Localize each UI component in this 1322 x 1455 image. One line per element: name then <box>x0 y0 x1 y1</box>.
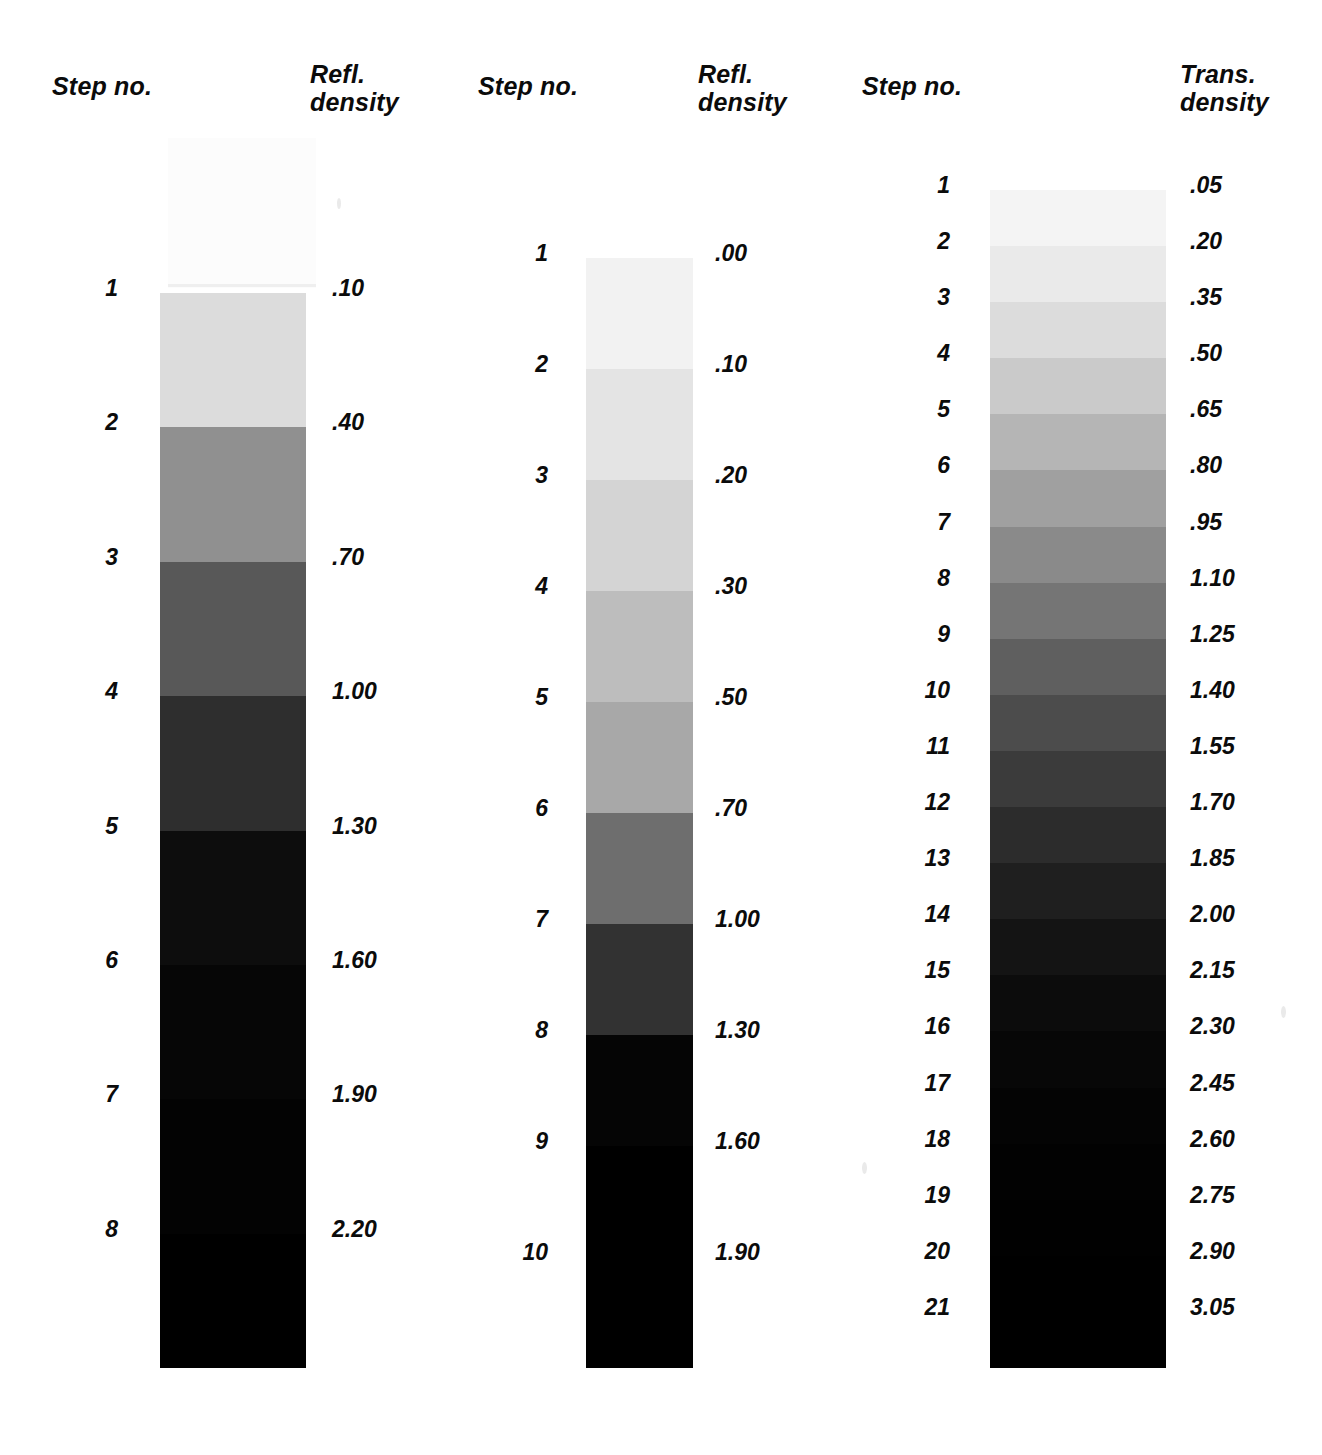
density-value-label: 1.10 <box>1190 567 1235 590</box>
density-value-label: 3.05 <box>1190 1296 1235 1319</box>
density-header-line-1: Trans. <box>1180 60 1269 88</box>
density-value-label: .80 <box>1190 454 1222 477</box>
density-patch <box>990 246 1166 303</box>
step-number-label: 3 <box>890 286 950 309</box>
step-no-header: Step no. <box>862 72 962 100</box>
step-number-label: 1 <box>890 174 950 197</box>
density-patch <box>990 1312 1166 1368</box>
step-number-label: 9 <box>890 623 950 646</box>
step-number-label: 7 <box>890 511 950 534</box>
step-number-label: 16 <box>890 1015 950 1038</box>
density-patch <box>990 302 1166 359</box>
step-number-label: 10 <box>890 679 950 702</box>
step-number-label: 2 <box>890 230 950 253</box>
density-value-label: 1.25 <box>1190 623 1235 646</box>
density-patch <box>990 1256 1166 1313</box>
density-patch <box>990 190 1166 247</box>
density-value-label: 2.45 <box>1190 1072 1235 1095</box>
step-number-label: 8 <box>890 567 950 590</box>
density-patch <box>990 1144 1166 1201</box>
density-value-label: 2.90 <box>1190 1240 1235 1263</box>
step-number-label: 4 <box>890 342 950 365</box>
density-patch <box>990 695 1166 752</box>
step-number-label: 19 <box>890 1184 950 1207</box>
step-number-label: 17 <box>890 1072 950 1095</box>
scale-column-3: Step no.Trans.density1.052.203.354.505.6… <box>0 0 1322 1455</box>
density-patch <box>990 1200 1166 1257</box>
density-value-label: 2.30 <box>1190 1015 1235 1038</box>
step-number-label: 12 <box>890 791 950 814</box>
density-value-label: .20 <box>1190 230 1222 253</box>
density-value-label: .95 <box>1190 511 1222 534</box>
step-number-label: 21 <box>890 1296 950 1319</box>
step-number-label: 14 <box>890 903 950 926</box>
grayscale-strip <box>990 190 1166 1368</box>
step-number-label: 18 <box>890 1128 950 1151</box>
density-value-label: 1.70 <box>1190 791 1235 814</box>
density-patch <box>990 807 1166 864</box>
density-patch <box>990 1031 1166 1088</box>
step-number-label: 5 <box>890 398 950 421</box>
density-patch <box>990 639 1166 696</box>
density-patch <box>990 919 1166 976</box>
density-header: Trans.density <box>1180 60 1269 116</box>
density-value-label: 1.85 <box>1190 847 1235 870</box>
density-patch <box>990 975 1166 1032</box>
step-number-label: 15 <box>890 959 950 982</box>
density-patch <box>990 751 1166 808</box>
step-number-label: 20 <box>890 1240 950 1263</box>
density-patch <box>990 470 1166 527</box>
density-value-label: 1.55 <box>1190 735 1235 758</box>
density-patch <box>990 583 1166 640</box>
density-value-label: 2.15 <box>1190 959 1235 982</box>
density-value-label: .05 <box>1190 174 1222 197</box>
density-patch <box>990 358 1166 415</box>
density-patch <box>990 527 1166 584</box>
step-number-label: 13 <box>890 847 950 870</box>
density-patch <box>990 863 1166 920</box>
step-wedge-figure: Step no.Refl.density1.102.403.7041.0051.… <box>0 0 1322 1455</box>
density-header-line-2: density <box>1180 88 1269 116</box>
density-value-label: .65 <box>1190 398 1222 421</box>
density-value-label: .50 <box>1190 342 1222 365</box>
density-value-label: 2.75 <box>1190 1184 1235 1207</box>
step-number-label: 6 <box>890 454 950 477</box>
density-value-label: .35 <box>1190 286 1222 309</box>
density-value-label: 2.00 <box>1190 903 1235 926</box>
density-patch <box>990 414 1166 471</box>
density-value-label: 2.60 <box>1190 1128 1235 1151</box>
step-number-label: 11 <box>890 735 950 758</box>
density-patch <box>990 1088 1166 1145</box>
density-value-label: 1.40 <box>1190 679 1235 702</box>
